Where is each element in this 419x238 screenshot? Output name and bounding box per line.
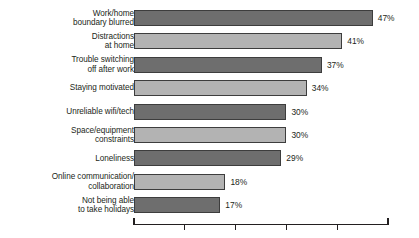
category-label: Work/home boundary blurred [4,9,134,28]
bar-row: Trouble switching off after work37% [0,57,419,77]
bar [134,150,281,166]
bar [134,57,322,73]
bar-value-label: 29% [286,153,303,163]
x-axis-tick [235,224,236,230]
bar-row: Loneliness29% [0,150,419,170]
category-label: Distractions at home [4,32,134,51]
x-axis-tick [286,224,287,230]
bar-row: Online communication/ collaboration18% [0,174,419,194]
bar-value-label: 18% [230,177,247,187]
bar-row: Space/equipment constraints30% [0,127,419,147]
category-label: Trouble switching off after work [4,55,134,74]
category-label: Not being able to take holidays [4,196,134,215]
bar-value-label: 41% [347,36,364,46]
bar-row: Distractions at home41% [0,33,419,53]
bar [134,127,286,143]
bar [134,33,342,49]
category-label: Staying motivated [4,83,134,92]
category-label: Unreliable wifi/tech [4,107,134,116]
bar [134,104,286,120]
category-label: Loneliness [4,154,134,163]
bar-value-label: 30% [291,107,308,117]
horizontal-bar-chart: Work/home boundary blurred47%Distraction… [0,0,419,238]
bar [134,197,220,213]
x-axis-tick [184,224,185,230]
plot-area: Work/home boundary blurred47%Distraction… [0,0,419,238]
bar-value-label: 47% [378,13,395,23]
x-axis-tick [387,218,388,225]
bar [134,80,307,96]
bar-value-label: 30% [291,130,308,140]
bar [134,174,225,190]
x-axis-tick [337,224,338,230]
bar-row: Staying motivated34% [0,80,419,100]
category-label: Space/equipment constraints [4,126,134,145]
x-axis-line [134,224,388,225]
bar-row: Work/home boundary blurred47% [0,10,419,30]
bar-value-label: 37% [327,60,344,70]
bar-value-label: 34% [312,83,329,93]
bar [134,10,373,26]
bar-value-label: 17% [225,200,242,210]
x-axis-tick [133,218,134,225]
bar-row: Not being able to take holidays17% [0,197,419,217]
bar-row: Unreliable wifi/tech30% [0,104,419,124]
category-label: Online communication/ collaboration [4,172,134,191]
